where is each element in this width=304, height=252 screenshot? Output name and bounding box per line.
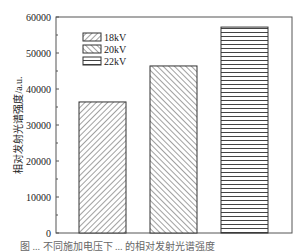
legend: 18kV20kV22kV bbox=[83, 32, 127, 67]
bar-chart: 0100002000030000400005000060000 18kV20kV… bbox=[0, 0, 304, 252]
legend-label-20kV: 20kV bbox=[104, 44, 127, 55]
legend-swatch-22kV bbox=[83, 57, 101, 65]
legend-swatch-18kV bbox=[83, 33, 101, 41]
bar-22kV bbox=[221, 27, 268, 233]
legend-swatch-20kV bbox=[83, 45, 101, 53]
y-tick-label: 0 bbox=[46, 228, 51, 239]
y-tick-label: 40000 bbox=[26, 84, 51, 95]
bar-20kV bbox=[150, 66, 197, 233]
y-tick-label: 10000 bbox=[26, 192, 51, 203]
y-axis: 0100002000030000400005000060000 bbox=[26, 12, 59, 239]
y-tick-label: 30000 bbox=[26, 120, 51, 131]
legend-label-18kV: 18kV bbox=[104, 32, 127, 43]
y-axis-label: 相对发射光谱强度/a.u. bbox=[12, 76, 24, 173]
legend-label-22kV: 22kV bbox=[104, 56, 127, 67]
y-tick-label: 60000 bbox=[26, 12, 51, 23]
bar-18kV bbox=[79, 102, 126, 233]
figure-caption: 图 ... 不同施加电压下 ... 的相对发射光谱强度 bbox=[20, 238, 215, 252]
y-tick-label: 50000 bbox=[26, 48, 51, 59]
y-tick-label: 20000 bbox=[26, 156, 51, 167]
